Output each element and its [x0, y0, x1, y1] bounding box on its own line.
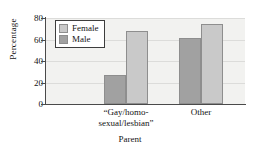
y-axis-tick-label: 20 — [17, 79, 43, 88]
y-axis-tick-label: 60 — [17, 36, 43, 45]
y-axis-tick-mark — [41, 18, 45, 19]
x-axis-tick-label-line: Other — [141, 107, 260, 118]
y-axis-tick-mark — [41, 40, 45, 41]
y-axis-tick-label: 0 — [17, 100, 43, 109]
legend-label-female: Female — [72, 24, 99, 33]
legend-item-female: Female — [59, 23, 99, 34]
bar-male-group-1 — [104, 75, 126, 104]
gridline — [46, 18, 245, 19]
y-axis-tick-mark — [41, 104, 45, 105]
bar-male-group-2 — [179, 38, 201, 104]
bar-female-group-1 — [126, 31, 148, 104]
bar-chart-figure: Percentage 020406080 Female Male “Gay/ho… — [0, 0, 260, 150]
legend-swatch-male-icon — [59, 35, 68, 44]
chart-legend: Female Male — [55, 20, 105, 48]
x-axis-line — [45, 104, 246, 105]
x-axis-title: Parent — [0, 134, 260, 144]
y-axis-tick-mark — [41, 61, 45, 62]
legend-swatch-female-icon — [59, 24, 68, 33]
y-axis-tick-label: 80 — [17, 14, 43, 23]
legend-item-male: Male — [59, 34, 99, 45]
y-axis-tick-mark — [41, 83, 45, 84]
y-axis-line — [45, 17, 46, 105]
x-axis-tick-label-line: sexual/lesbian” — [66, 118, 186, 129]
legend-label-male: Male — [72, 35, 91, 44]
y-axis-tick-label: 40 — [17, 57, 43, 66]
bar-female-group-2 — [201, 24, 223, 104]
x-axis-tick-label: Other — [141, 107, 260, 118]
